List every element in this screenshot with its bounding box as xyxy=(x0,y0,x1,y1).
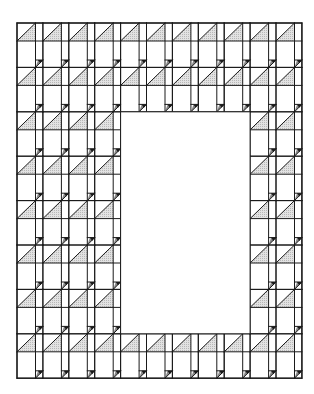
center-opening xyxy=(121,112,251,334)
quilt-pattern-diagram xyxy=(0,0,314,394)
